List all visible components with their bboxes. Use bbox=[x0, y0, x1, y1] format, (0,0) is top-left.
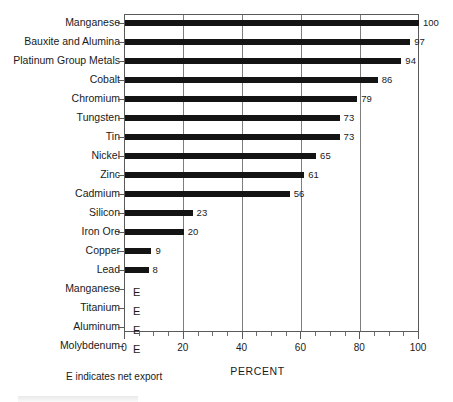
bar-value-label: 94 bbox=[405, 54, 416, 67]
y-axis-tick bbox=[118, 194, 124, 195]
x-tick-major bbox=[300, 332, 301, 339]
bar-value-label: 73 bbox=[344, 111, 355, 124]
x-tick-minor bbox=[271, 332, 272, 336]
bar bbox=[125, 134, 340, 140]
x-tick-minor bbox=[330, 332, 331, 336]
bar bbox=[125, 229, 184, 235]
y-axis-tick bbox=[118, 99, 124, 100]
x-tick-minor bbox=[374, 332, 375, 336]
bar bbox=[125, 191, 290, 197]
x-axis: 020406080100 bbox=[124, 332, 419, 362]
x-tick-minor bbox=[256, 332, 257, 336]
bar-row: Copper9 bbox=[0, 242, 453, 261]
bar bbox=[125, 58, 401, 64]
category-label: Manganese bbox=[65, 282, 120, 295]
bar-row: Nickel65 bbox=[0, 147, 453, 166]
x-tick-minor bbox=[315, 332, 316, 336]
bar-row: Tungsten73 bbox=[0, 109, 453, 128]
x-tick-label: 40 bbox=[236, 341, 247, 354]
y-axis-tick bbox=[118, 327, 124, 328]
export-marker: E bbox=[133, 305, 140, 318]
x-tick-major bbox=[183, 332, 184, 339]
category-label: Cadmium bbox=[75, 187, 120, 200]
bar-row: Silicon23 bbox=[0, 204, 453, 223]
y-axis-tick bbox=[118, 289, 124, 290]
bar-row: Manganese100 bbox=[0, 14, 453, 33]
bar bbox=[125, 210, 193, 216]
bar bbox=[125, 248, 151, 254]
bar-value-label: 9 bbox=[155, 244, 160, 257]
y-axis-tick bbox=[118, 232, 124, 233]
y-axis-tick bbox=[118, 61, 124, 62]
category-label: Aluminum bbox=[73, 320, 120, 333]
x-tick-major bbox=[418, 332, 419, 339]
category-label: Silicon bbox=[89, 206, 120, 219]
y-axis-tick bbox=[118, 118, 124, 119]
bar-row: Bauxite and Alumina97 bbox=[0, 33, 453, 52]
bar bbox=[125, 77, 378, 83]
bar-row: TitaniumE bbox=[0, 299, 453, 318]
category-label: Cobalt bbox=[90, 73, 120, 86]
x-tick-label: 0 bbox=[121, 341, 127, 354]
category-label: Manganese bbox=[65, 16, 120, 29]
bar-row: Tin73 bbox=[0, 128, 453, 147]
bar-value-label: 20 bbox=[188, 225, 199, 238]
bar-value-label: 97 bbox=[414, 35, 425, 48]
category-label: Bauxite and Alumina bbox=[24, 35, 120, 48]
x-tick-minor bbox=[212, 332, 213, 336]
bar-value-label: 86 bbox=[382, 73, 393, 86]
x-tick-minor bbox=[139, 332, 140, 336]
x-tick-label: 60 bbox=[295, 341, 306, 354]
category-label: Molybdenum bbox=[60, 339, 120, 352]
bar-row: Cobalt86 bbox=[0, 71, 453, 90]
category-label: Copper bbox=[86, 244, 120, 257]
x-tick-label: 20 bbox=[177, 341, 188, 354]
y-axis-tick bbox=[118, 156, 124, 157]
bar-value-label: 100 bbox=[423, 16, 439, 29]
x-tick-minor bbox=[403, 332, 404, 336]
bar-value-label: 8 bbox=[153, 263, 158, 276]
bar-row: Cadmium56 bbox=[0, 185, 453, 204]
y-axis-tick bbox=[118, 270, 124, 271]
category-label: Chromium bbox=[72, 92, 120, 105]
bar-row: Iron Ore20 bbox=[0, 223, 453, 242]
bar-value-label: 61 bbox=[308, 168, 319, 181]
bar-row: ManganeseE bbox=[0, 280, 453, 299]
x-tick-label: 100 bbox=[410, 341, 427, 354]
footnote: E indicates net export bbox=[66, 370, 162, 383]
category-label: Tungsten bbox=[77, 111, 120, 124]
y-axis-tick bbox=[118, 80, 124, 81]
y-axis-tick bbox=[118, 137, 124, 138]
x-tick-minor bbox=[227, 332, 228, 336]
bar-value-label: 65 bbox=[320, 149, 331, 162]
bar-row: Lead8 bbox=[0, 261, 453, 280]
bar-value-label: 23 bbox=[197, 206, 208, 219]
bar bbox=[125, 96, 357, 102]
category-label: Titanium bbox=[80, 301, 120, 314]
x-tick-major bbox=[242, 332, 243, 339]
chart-figure: Manganese100Bauxite and Alumina97Platinu… bbox=[0, 0, 453, 402]
bar bbox=[125, 39, 410, 45]
x-tick-label: 80 bbox=[354, 341, 365, 354]
caption-sliver bbox=[18, 396, 138, 402]
x-tick-minor bbox=[198, 332, 199, 336]
bar bbox=[125, 153, 316, 159]
y-axis-tick bbox=[118, 23, 124, 24]
x-tick-minor bbox=[286, 332, 287, 336]
bar-row: Zinc61 bbox=[0, 166, 453, 185]
y-axis-tick bbox=[118, 42, 124, 43]
bar bbox=[125, 172, 304, 178]
y-axis-tick bbox=[118, 175, 124, 176]
bar-rows: Manganese100Bauxite and Alumina97Platinu… bbox=[0, 14, 453, 332]
bar bbox=[125, 20, 419, 26]
bar-row: Chromium79 bbox=[0, 90, 453, 109]
x-tick-minor bbox=[168, 332, 169, 336]
y-axis-tick bbox=[118, 251, 124, 252]
bar-value-label: 56 bbox=[294, 187, 305, 200]
bar bbox=[125, 267, 149, 273]
category-label: Nickel bbox=[91, 149, 120, 162]
category-label: Platinum Group Metals bbox=[13, 54, 120, 67]
y-axis-tick bbox=[118, 308, 124, 309]
category-label: Lead bbox=[97, 263, 120, 276]
x-tick-major bbox=[124, 332, 125, 339]
